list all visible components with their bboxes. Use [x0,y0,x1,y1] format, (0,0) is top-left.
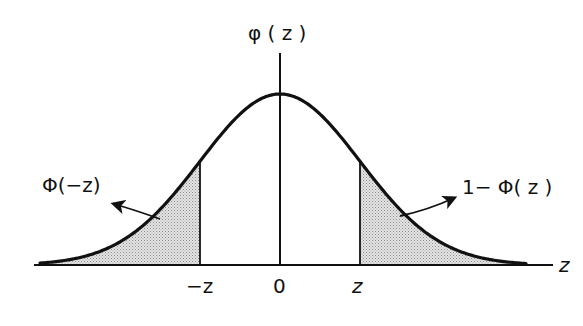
normal-distribution-diagram: φ ( z ) z −z 0 z Φ(−z) 1− Φ( z ) [0,0,583,326]
x-axis-label: z [558,253,570,277]
right-arrow [400,198,454,216]
left-region-label: Φ(−z) [42,173,101,197]
left-arrow [114,204,160,219]
tick-minus-z: −z [186,274,213,298]
y-axis-label: φ ( z ) [248,21,306,45]
right-region-label: 1− Φ( z ) [462,175,552,199]
tick-zero: 0 [273,274,286,298]
density-curve [40,94,526,263]
tick-z: z [351,274,363,298]
